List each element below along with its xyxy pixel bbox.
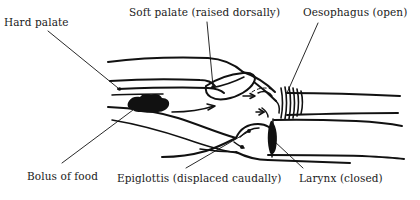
nasal-roof-line [108, 58, 243, 72]
larynx-structure [234, 119, 404, 163]
label-oesophagus: Oesophagus (open) [303, 6, 407, 18]
larynx-floor-line [268, 155, 404, 159]
jaw-contour-line [162, 138, 236, 157]
nasal-passage-outline [108, 58, 243, 86]
laryngeal-cartilage-line [272, 119, 273, 157]
arrow-shaft [172, 106, 214, 112]
oesophagus-dorsal-line [287, 93, 400, 96]
soft-palate-fold [211, 77, 244, 88]
leader-soft-palate [207, 22, 213, 86]
label-bolus-of-food: Bolus of food [27, 170, 98, 182]
leader-bolus [62, 110, 133, 163]
oesophagus-ventral-line [287, 113, 398, 115]
leader-lines [48, 22, 318, 168]
label-epiglottis: Epiglottis (displaced caudally) [117, 172, 281, 184]
bolus-of-food [128, 94, 170, 113]
ventral-neck-line [236, 152, 350, 163]
swallowing-diagram-figure: Hard palate Soft palate (raised dorsally… [0, 0, 420, 200]
bolus-direction-arrow [172, 104, 215, 112]
bolus-blob [128, 94, 170, 113]
label-soft-palate: Soft palate (raised dorsally) [129, 6, 280, 18]
leader-oesophagus [287, 23, 318, 93]
pharyngo-oesophageal-junction [276, 101, 279, 113]
leader-epiglottis [186, 132, 248, 168]
nasopharynx-floor-line [110, 79, 215, 86]
tongue-root-line [112, 120, 238, 153]
larynx-roof-line [274, 120, 402, 126]
hyoid-link [234, 142, 244, 148]
lower-jaw-outline [162, 138, 236, 157]
hard-palate-line [118, 88, 224, 93]
label-hard-palate: Hard palate [4, 16, 69, 28]
oesophagus-structure [276, 87, 400, 119]
leader-hard-palate [48, 31, 118, 88]
label-larynx: Larynx (closed) [299, 172, 383, 184]
